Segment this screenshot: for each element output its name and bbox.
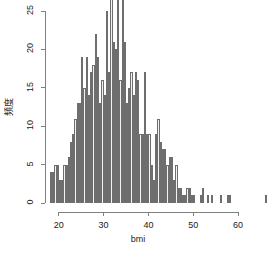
- y-tick-mark: [41, 126, 45, 127]
- histogram-plot: 頻度 bmi 05101520252030405060: [0, 0, 276, 255]
- y-tick-label: 20: [25, 37, 35, 59]
- y-tick-mark: [41, 203, 45, 204]
- histogram-bar: [202, 188, 204, 203]
- x-tick-mark: [58, 212, 59, 216]
- histogram-bar: [229, 195, 231, 203]
- histogram-bar: [220, 195, 222, 203]
- x-tick-mark: [193, 212, 194, 216]
- x-tick-label: 20: [47, 220, 71, 230]
- x-tick-label: 40: [136, 220, 160, 230]
- y-tick-mark: [41, 11, 45, 12]
- y-tick-mark: [41, 49, 45, 50]
- x-tick-label: 50: [181, 220, 205, 230]
- histogram-bar: [211, 195, 213, 203]
- x-tick-label: 60: [226, 220, 250, 230]
- histogram-bar: [207, 195, 209, 203]
- bar-series: [0, 0, 276, 203]
- y-tick-label: 10: [25, 114, 35, 136]
- histogram-bar: [265, 195, 267, 203]
- y-tick-mark: [41, 87, 45, 88]
- x-tick-mark: [103, 212, 104, 216]
- x-axis-label: bmi: [0, 234, 276, 244]
- x-tick-mark: [148, 212, 149, 216]
- y-tick-label: 0: [25, 191, 35, 213]
- x-tick-label: 30: [92, 220, 116, 230]
- histogram-bar: [193, 195, 195, 203]
- y-tick-label: 5: [25, 153, 35, 175]
- y-tick-label: 25: [25, 0, 35, 21]
- x-tick-mark: [238, 212, 239, 216]
- y-tick-label: 15: [25, 76, 35, 98]
- y-tick-mark: [41, 164, 45, 165]
- y-axis-line: [45, 11, 46, 203]
